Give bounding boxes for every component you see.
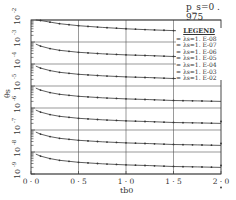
series-line xyxy=(36,88,221,101)
series-marker xyxy=(59,23,61,25)
svg-text:10: 10 xyxy=(13,81,22,91)
series-marker xyxy=(106,27,108,29)
legend: LEGEND = λs=1. E-08 = λs=1. E-07 = λs=1.… xyxy=(176,28,222,80)
series-marker xyxy=(116,76,118,78)
series-marker xyxy=(220,143,222,145)
series-marker xyxy=(163,143,165,145)
series-marker xyxy=(211,122,213,124)
svg-text:-4: -4 xyxy=(11,51,17,57)
parameter-annotation: p_s=0 . 975 xyxy=(186,2,236,22)
series-marker xyxy=(201,166,203,168)
y-tick-label: 10-4 xyxy=(11,51,22,69)
series-marker xyxy=(211,144,213,146)
series-marker xyxy=(97,119,99,121)
series-marker xyxy=(135,164,137,166)
series-marker xyxy=(125,120,127,122)
series-marker xyxy=(154,77,156,79)
series-marker xyxy=(106,163,108,165)
y-tick-label: 10-6 xyxy=(11,95,22,113)
series-marker xyxy=(192,100,194,102)
series-marker xyxy=(78,95,80,97)
x-tick-label: 2 · 0 xyxy=(213,177,230,186)
series-marker xyxy=(68,94,70,96)
svg-text:10: 10 xyxy=(13,147,22,157)
series-marker xyxy=(40,133,42,135)
series-marker xyxy=(125,164,127,166)
svg-text:-2: -2 xyxy=(11,8,17,13)
series-marker xyxy=(49,48,51,50)
y-axis-label: θs xyxy=(3,89,12,98)
series-marker xyxy=(125,28,127,30)
series-marker xyxy=(182,122,184,124)
series-marker xyxy=(87,25,89,27)
svg-text:-5: -5 xyxy=(11,73,17,79)
series-marker xyxy=(87,140,89,142)
series-marker xyxy=(135,98,137,100)
x-tick-label: 1 · 0 xyxy=(118,177,135,186)
series-marker xyxy=(68,24,70,26)
series-marker xyxy=(135,28,137,30)
series-marker xyxy=(87,96,89,98)
series-marker xyxy=(163,55,165,57)
series-marker xyxy=(78,161,80,163)
series-marker xyxy=(182,166,184,168)
series-marker xyxy=(135,120,137,122)
series-marker xyxy=(87,162,89,164)
series-marker xyxy=(173,122,175,124)
series-marker xyxy=(106,141,108,143)
series-marker xyxy=(135,76,137,78)
y-tick-label: 10-3 xyxy=(11,29,22,47)
series-marker xyxy=(163,165,165,167)
series-marker xyxy=(144,143,146,145)
series-marker xyxy=(116,142,118,144)
series-marker xyxy=(116,164,118,166)
series-marker xyxy=(201,144,203,146)
svg-text:10: 10 xyxy=(13,125,22,135)
series-marker xyxy=(40,89,42,91)
series-marker xyxy=(182,144,184,146)
series-marker xyxy=(116,98,118,100)
series-marker xyxy=(49,92,51,94)
svg-text:10: 10 xyxy=(13,103,22,113)
series-marker xyxy=(173,100,175,102)
series-marker xyxy=(97,75,99,77)
series-marker xyxy=(154,121,156,123)
series-marker xyxy=(220,187,222,189)
svg-text:-9: -9 xyxy=(11,161,17,167)
series-marker xyxy=(211,166,213,168)
series-marker xyxy=(173,30,175,32)
series-marker xyxy=(125,76,127,78)
series-marker xyxy=(106,97,108,99)
series-marker xyxy=(78,51,80,53)
y-tick-label: 10-8 xyxy=(11,139,22,157)
series-marker xyxy=(163,77,165,79)
series-marker xyxy=(78,73,80,75)
series-marker xyxy=(173,144,175,146)
series-marker xyxy=(97,26,99,28)
series-marker xyxy=(40,155,42,157)
legend-item: = λs=1. E-02 xyxy=(176,75,222,82)
y-tick-label: 10-2 xyxy=(11,8,22,25)
series-marker xyxy=(116,120,118,122)
series-marker xyxy=(173,166,175,168)
series-line xyxy=(36,110,221,123)
series-marker xyxy=(106,119,108,121)
x-axis-ticks: 0 · 00 · 51 · 01 · 52 · 0 xyxy=(23,171,230,186)
series-marker xyxy=(49,70,51,72)
series-marker xyxy=(192,144,194,146)
series-marker xyxy=(49,158,51,160)
series-marker xyxy=(125,142,127,144)
svg-text:10: 10 xyxy=(13,169,22,179)
x-tick-label: 0 · 5 xyxy=(70,177,87,186)
series-marker xyxy=(154,165,156,167)
series-marker xyxy=(163,29,165,31)
y-tick-label: 10-7 xyxy=(11,117,22,135)
series-marker xyxy=(220,121,222,123)
series-marker xyxy=(192,166,194,168)
series-marker xyxy=(144,99,146,101)
series-line xyxy=(36,154,221,167)
series-marker xyxy=(40,20,42,22)
series-marker xyxy=(97,141,99,143)
series-marker xyxy=(163,99,165,101)
series-marker xyxy=(49,136,51,138)
